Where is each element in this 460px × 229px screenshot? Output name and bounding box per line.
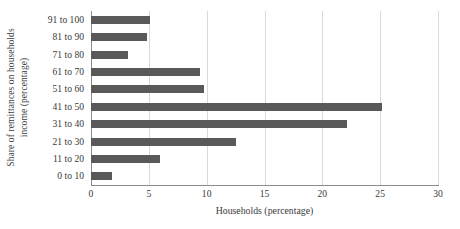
y-axis-tick-label: 21 to 30 [30, 133, 88, 150]
bar [91, 172, 112, 180]
x-axis-tick-label: 15 [260, 188, 270, 200]
x-axis-tick-label: 20 [318, 188, 328, 200]
bar [91, 138, 236, 146]
bar-slot [91, 98, 438, 115]
y-axis-title-line-1: Share of remittances on households [6, 28, 16, 166]
bar [91, 16, 150, 24]
x-axis-tick-label: 0 [89, 188, 94, 200]
gridline [438, 11, 439, 185]
y-axis-tick-label: 0 to 10 [30, 168, 88, 185]
y-axis-tick-label: 31 to 40 [30, 115, 88, 132]
x-axis-line [91, 185, 439, 186]
bar-slot [91, 115, 438, 132]
bar [91, 33, 147, 41]
x-axis-tick-labels: 051015202530 [91, 188, 438, 202]
bar-slot [91, 81, 438, 98]
x-axis-title: Households (percentage) [91, 205, 438, 216]
bar-slot [91, 150, 438, 167]
y-axis-title-line-2: income (percentage) [17, 28, 30, 166]
bar [91, 85, 204, 93]
bar-slot [91, 63, 438, 80]
bar-slot [91, 168, 438, 185]
y-axis-tick-label: 41 to 50 [30, 98, 88, 115]
x-axis-tick-label: 10 [202, 188, 212, 200]
y-axis-tick-label: 11 to 20 [30, 150, 88, 167]
bar-slot [91, 28, 438, 45]
y-axis-title: Share of remittances on households incom… [0, 0, 34, 195]
bar [91, 51, 128, 59]
x-axis-tick-label: 25 [375, 188, 385, 200]
y-axis-tick-label: 51 to 60 [30, 81, 88, 98]
bar [91, 68, 200, 76]
y-axis-tick-label: 61 to 70 [30, 63, 88, 80]
bar-slot [91, 46, 438, 63]
plot-area [91, 11, 438, 185]
x-axis-tick-label: 30 [433, 188, 443, 200]
y-axis-tick-labels: 91 to 10081 to 9071 to 8061 to 7051 to 6… [30, 11, 88, 185]
y-axis-tick-label: 81 to 90 [30, 28, 88, 45]
bar-slot [91, 11, 438, 28]
bar [91, 155, 160, 163]
bar-chart: Share of remittances on households incom… [0, 0, 460, 229]
bars-layer [91, 11, 438, 185]
bar-slot [91, 133, 438, 150]
bar [91, 103, 382, 111]
y-axis-tick-label: 91 to 100 [30, 11, 88, 28]
bar [91, 120, 347, 128]
x-axis-tick-label: 5 [146, 188, 151, 200]
y-axis-tick-label: 71 to 80 [30, 46, 88, 63]
